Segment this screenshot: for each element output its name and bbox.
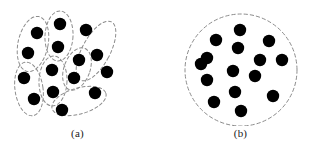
panel-b: (b) [156,0,311,157]
data-point [31,27,43,39]
data-point [229,86,241,98]
data-point [195,58,207,70]
data-point [267,90,279,102]
panel-b-caption: (b) [156,126,311,140]
data-point [52,41,64,53]
panel-a-plot [0,0,155,126]
data-point [227,65,239,77]
data-point [210,34,222,46]
data-point [28,93,40,105]
data-point [235,105,247,117]
data-point [263,35,275,47]
data-point [73,54,85,66]
data-point [254,54,266,66]
data-point [249,70,261,82]
data-point [46,64,58,76]
data-point [56,104,68,116]
data-point [101,66,113,78]
data-point [89,87,101,99]
data-point [232,42,244,54]
panel-a: (a) [0,0,155,157]
data-point [47,86,59,98]
data-point [22,47,34,59]
panel-a-caption: (a) [0,126,155,140]
panel-b-plot [156,0,311,126]
data-point [18,72,30,84]
data-point [80,24,92,36]
data-point [276,54,288,66]
data-point [208,96,220,108]
cluster-boundary-7 [49,81,110,121]
data-point [54,18,66,30]
data-point [91,49,103,61]
data-point [234,24,246,36]
data-point [201,74,213,86]
figure-root: (a) (b) [0,0,311,157]
data-point [68,72,80,84]
